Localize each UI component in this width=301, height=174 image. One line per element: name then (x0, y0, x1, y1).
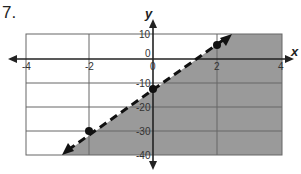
y-axis-down-arrow-icon (149, 161, 157, 170)
svg-text:-40: -40 (136, 150, 151, 161)
svg-text:4: 4 (278, 61, 284, 72)
point-2-6 (213, 41, 221, 49)
svg-text:-30: -30 (136, 126, 151, 137)
svg-text:-10: -10 (136, 78, 151, 89)
svg-text:0: 0 (150, 61, 156, 72)
x-axis-left-arrow-icon (8, 55, 17, 63)
svg-text:10: 10 (139, 29, 151, 40)
svg-text:-4: -4 (22, 61, 31, 72)
inequality-graph: x y -4 -2 0 2 4 10 0 -10 -20 -30 -40 (0, 0, 301, 174)
point-0-neg12 (149, 85, 157, 93)
y-axis-label: y (144, 6, 153, 21)
svg-text:0: 0 (145, 48, 151, 59)
point-neg2-neg30 (85, 127, 93, 135)
svg-text:-2: -2 (85, 61, 94, 72)
shaded-region (62, 34, 282, 155)
svg-text:2: 2 (214, 61, 220, 72)
x-axis-label: x (290, 44, 299, 59)
svg-text:-20: -20 (136, 102, 151, 113)
